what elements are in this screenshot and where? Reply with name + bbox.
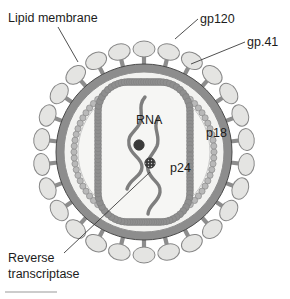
p18-matrix-bead bbox=[72, 161, 78, 167]
label-reverse-transcriptase-line: Reverse bbox=[8, 251, 55, 265]
p18-matrix-bead bbox=[73, 131, 79, 137]
p18-matrix-bead bbox=[209, 167, 215, 173]
p18-matrix-bead bbox=[71, 143, 77, 149]
p18-matrix-bead bbox=[71, 155, 77, 161]
label-lipid-membrane-line: Lipid membrane bbox=[8, 11, 98, 25]
label-p18-line: p18 bbox=[206, 126, 227, 140]
p18-matrix-bead bbox=[72, 137, 78, 143]
p24-capsid-bead bbox=[187, 145, 194, 152]
gp120-knob bbox=[133, 247, 155, 263]
label-gp120: gp120 bbox=[200, 12, 235, 26]
label-p24-line: p24 bbox=[170, 161, 191, 175]
p24-capsid-interior bbox=[98, 82, 190, 222]
label-p18: p18 bbox=[206, 126, 227, 140]
label-rna: RNA bbox=[136, 113, 163, 127]
hiv-virion-diagram: Lipid membranegp120gp.41p18RNAp24Reverse… bbox=[0, 0, 290, 299]
p18-matrix-bead bbox=[75, 172, 81, 178]
p18-matrix-bead bbox=[73, 167, 79, 173]
figure-root: Lipid membranegp120gp.41p18RNAp24Reverse… bbox=[0, 0, 290, 299]
label-rna-line: RNA bbox=[136, 113, 163, 127]
p18-matrix-bead bbox=[211, 155, 217, 161]
p18-matrix-bead bbox=[210, 161, 216, 167]
label-gp120-line: gp120 bbox=[200, 12, 235, 26]
p18-matrix-bead bbox=[71, 149, 77, 155]
label-gp41: gp.41 bbox=[247, 35, 278, 49]
rna-binding-dot bbox=[134, 140, 144, 150]
label-gp41-line: gp.41 bbox=[247, 35, 278, 49]
label-reverse-transcriptase-line: transcriptase bbox=[8, 267, 80, 281]
label-p24: p24 bbox=[170, 161, 191, 175]
p18-matrix-bead bbox=[211, 143, 217, 149]
label-lipid-membrane: Lipid membrane bbox=[8, 11, 98, 25]
gp120-knob bbox=[133, 41, 155, 57]
p18-matrix-bead bbox=[211, 149, 217, 155]
reverse-transcriptase-dot bbox=[145, 158, 155, 168]
